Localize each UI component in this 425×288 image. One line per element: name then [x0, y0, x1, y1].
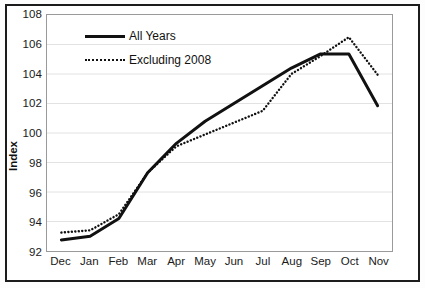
y-tick-label: 96: [2, 187, 42, 199]
x-tick-label: Dec: [46, 255, 75, 275]
x-tick-label: May: [191, 255, 220, 275]
x-tick-label: Nov: [364, 255, 393, 275]
x-tick-label: Feb: [104, 255, 133, 275]
x-tick-label: Aug: [277, 255, 306, 275]
series-line-all-years: [61, 54, 377, 240]
x-tick-label: Jun: [220, 255, 249, 275]
series-lines: [47, 15, 392, 251]
x-tick-label: Oct: [335, 255, 364, 275]
y-tick-label: 106: [2, 38, 42, 50]
y-tick-label: 108: [2, 8, 42, 20]
y-tick-label: 100: [2, 127, 42, 139]
x-tick-label: Apr: [162, 255, 191, 275]
y-axis-tick-labels: 10810610410210098969492: [0, 14, 42, 252]
y-tick-label: 102: [2, 97, 42, 109]
chart-figure: Index 10810610410210098969492 All Years …: [0, 0, 425, 288]
plot-area: All Years Excluding 2008: [46, 14, 393, 252]
x-tick-label: Mar: [133, 255, 162, 275]
x-tick-label: Sep: [306, 255, 335, 275]
y-tick-label: 98: [2, 157, 42, 169]
y-tick-label: 94: [2, 216, 42, 228]
y-tick-label: 104: [2, 68, 42, 80]
series-line-excluding-2008: [61, 37, 377, 232]
x-tick-label: Jan: [75, 255, 104, 275]
x-tick-label: Jul: [248, 255, 277, 275]
x-axis-tick-labels: DecJanFebMarAprMayJunJulAugSepOctNov: [46, 255, 393, 275]
y-tick-label: 92: [2, 246, 42, 258]
